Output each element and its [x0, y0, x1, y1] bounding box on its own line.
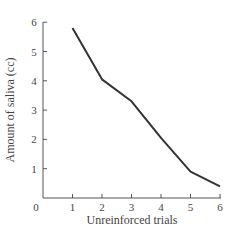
x-tick-label: 6: [217, 201, 223, 213]
x-tick-label: 3: [129, 201, 135, 213]
y-tick-label: 2: [31, 133, 37, 145]
x-ticks: 0123456: [33, 194, 223, 213]
x-axis-title: Unreinforced trials: [87, 213, 178, 227]
y-tick-label: 6: [31, 16, 37, 28]
y-tick-label: 5: [31, 46, 37, 58]
y-tick-label: 3: [31, 104, 37, 116]
y-tick-label: 4: [31, 75, 37, 87]
x-tick-label: 2: [99, 201, 105, 213]
y-tick-label: 1: [31, 163, 37, 175]
axes: [43, 22, 221, 198]
x-tick-label: 0: [33, 201, 39, 213]
line-chart: 123456 0123456 Unreinforced trials Amoun…: [0, 0, 236, 231]
x-tick-label: 1: [70, 201, 76, 213]
y-ticks: 123456: [31, 16, 47, 175]
y-axis-title: Amount of saliva (cc): [3, 58, 17, 163]
data-line: [73, 28, 221, 186]
x-tick-label: 4: [158, 201, 164, 213]
x-tick-label: 5: [188, 201, 194, 213]
